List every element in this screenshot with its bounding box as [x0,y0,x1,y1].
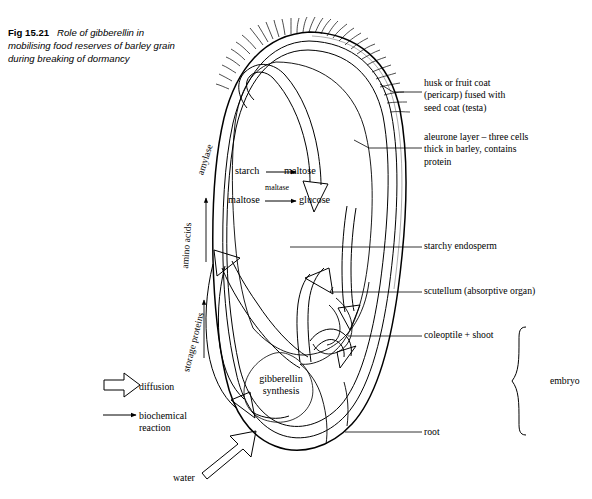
label-scutellum: scutellum (absorptive organ) [424,285,589,297]
reaction-label-glucose: glucose [299,194,330,205]
figure-number: Fig 15.21 [8,27,49,38]
embryo-brace [512,327,526,435]
reaction-label-maltose-substrate: maltose [228,194,260,205]
label-embryo: embryo [550,375,592,387]
diffusion-arrow-glucose [338,206,360,330]
aleurone-layer-outline [227,50,388,426]
figure-caption: Fig 15.21 Role of gibberellin in mobilis… [8,26,178,66]
reaction-label-maltose-product: maltose [284,165,316,176]
legend-diffusion-symbol [104,373,140,397]
husk-hairs [216,17,410,112]
biochemical-arrow-left-upper [204,198,206,358]
diffusion-arrow-water [202,431,256,479]
legend-label-biochemical-reaction: biochemical reaction [139,410,219,433]
label-starchy-endosperm: starchy endosperm [424,240,584,252]
diffusion-arrow-storage-proteins [214,250,308,368]
label-coleoptile-shoot: coleoptile + shoot [424,329,544,341]
reaction-label-starch: starch [235,165,259,176]
aleurone-band-shade [312,36,402,289]
figure-canvas: Fig 15.21 Role of gibberellin in mobilis… [0,0,592,499]
enzyme-label-maltase: maltase [265,183,289,192]
label-gibberellin-synthesis: gibberellin synthesis [243,373,319,397]
label-aleurone-layer: aleurone layer – three cells thick in ba… [424,131,584,168]
label-root: root [424,426,544,438]
label-husk: husk or fruit coat (pericarp) fused with… [424,77,584,114]
legend-label-diffusion: diffusion [139,381,174,393]
label-water: water [173,472,195,484]
